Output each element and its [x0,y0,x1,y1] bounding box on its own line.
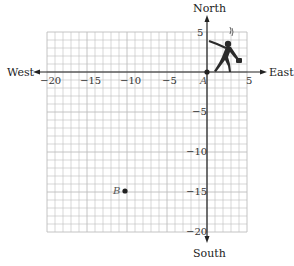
north-arrow-icon [205,15,210,22]
y-tick-label: −15 [186,187,207,197]
x-tick-label: 5 [246,76,252,86]
coordinate-map-diagram: North South East West −20 −15 −10 −5 5 5… [0,0,294,266]
walking-person-icon [209,27,242,72]
south-arrow-icon [205,236,210,243]
y-tick-label: −20 [186,227,207,237]
south-label: South [193,248,226,259]
x-tick-label: −5 [162,76,177,86]
grid-lines [47,32,247,232]
north-label: North [193,3,226,14]
x-tick-label: −15 [80,76,101,86]
point-b-marker [122,188,127,193]
y-tick-label: 5 [197,28,203,38]
grid-plot [0,0,294,266]
x-tick-label: −20 [40,76,61,86]
point-a-marker [204,69,209,74]
y-tick-label: −5 [192,107,207,117]
west-arrow-icon [33,70,40,75]
west-label: West [7,67,34,78]
east-arrow-icon [260,70,267,75]
x-tick-label: −10 [120,76,141,86]
x-axis [33,70,267,75]
y-tick-label: −10 [186,147,207,157]
east-label: East [269,67,294,78]
point-a-label: A [200,76,207,86]
y-axis [205,15,210,243]
point-b-label: B [113,186,120,196]
